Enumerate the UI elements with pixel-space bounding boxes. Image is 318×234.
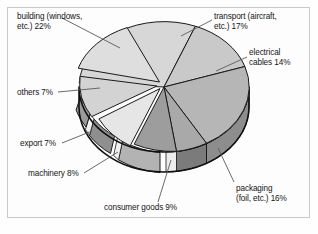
pie-label-building: building (windows, etc.) 22% — [17, 12, 113, 32]
pie-label-consumer-goods: consumer goods 9% — [104, 203, 208, 213]
pie-label-electrical-cables: electrical cables 14% — [249, 48, 315, 68]
chart-figure: building (windows, etc.) 22% transport (… — [0, 0, 318, 234]
leader-packaging — [218, 148, 234, 182]
pie-label-packaging: packaging (foil, etc.) 16% — [236, 184, 316, 204]
pie-label-export: export 7% — [20, 139, 80, 149]
pie-label-others: others 7% — [17, 88, 75, 98]
pie-label-machinery: machinery 8% — [28, 169, 104, 179]
pie-label-transport: transport (aircraft, etc.) 17% — [214, 12, 314, 32]
side-wall-gap-a — [166, 151, 177, 172]
